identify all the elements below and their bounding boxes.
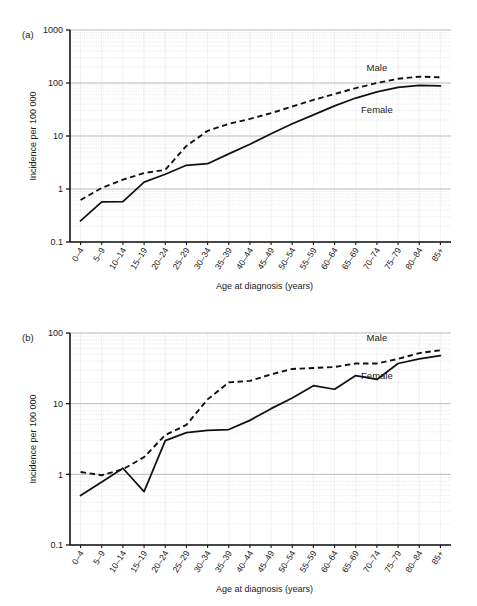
x-tick-label: 35–39 <box>213 246 234 272</box>
x-tick-label: 35–39 <box>213 549 234 575</box>
series-label-female: Female <box>361 104 393 115</box>
x-tick-label: 65–69 <box>340 549 361 575</box>
y-tick-label: 10 <box>53 399 63 409</box>
series-label-male: Male <box>367 332 388 343</box>
y-axis-ticks: 0.1110100 <box>48 328 70 550</box>
x-tick-label: 60–64 <box>319 246 340 272</box>
x-tick-label: 20–24 <box>149 246 170 272</box>
x-tick-label: 0–4 <box>70 549 86 567</box>
x-tick-label: 25–29 <box>170 246 191 272</box>
y-tick-label: 1 <box>58 470 63 480</box>
x-tick-label: 5–9 <box>91 246 107 264</box>
x-tick-label: 15–19 <box>128 549 149 575</box>
y-tick-label: 0.1 <box>50 540 63 550</box>
chart-a: (a)0.11101001000Incidence per 100 0000–4… <box>0 0 477 303</box>
x-tick-label: 65–69 <box>340 246 361 272</box>
x-axis-ticks: 0–45–910–1415–1920–2425–2930–3435–3940–4… <box>70 242 446 271</box>
x-axis-ticks: 0–45–910–1415–1920–2425–2930–3435–3940–4… <box>70 545 446 574</box>
y-tick-label: 1 <box>58 184 63 194</box>
x-tick-label: 70–74 <box>361 549 382 575</box>
x-tick-label: 85+ <box>429 549 445 567</box>
x-tick-label: 60–64 <box>319 549 340 575</box>
y-axis-title: Incidence per 100 000 <box>28 394 38 483</box>
x-tick-label: 85+ <box>429 246 445 264</box>
gridlines <box>70 30 451 242</box>
x-tick-label: 45–49 <box>255 549 276 575</box>
gridlines <box>70 333 451 545</box>
x-tick-label: 10–14 <box>107 246 128 272</box>
x-tick-label: 80–84 <box>403 549 424 575</box>
x-tick-label: 50–54 <box>276 549 297 575</box>
chart-b: (b)0.1110100Incidence per 100 0000–45–91… <box>0 303 477 606</box>
y-tick-label: 1000 <box>43 25 63 35</box>
x-tick-label: 0–4 <box>70 246 86 264</box>
series-label-female: Female <box>361 370 393 381</box>
y-axis-title: Incidence per 100 000 <box>28 91 38 180</box>
axes <box>70 333 451 545</box>
x-tick-label: 15–19 <box>128 246 149 272</box>
x-tick-label: 40–44 <box>234 549 255 575</box>
x-tick-label: 75–79 <box>382 246 403 272</box>
y-tick-label: 100 <box>48 78 63 88</box>
y-tick-label: 0.1 <box>50 237 63 247</box>
x-axis-title: Age at diagnosis (years) <box>216 584 313 594</box>
x-tick-label: 5–9 <box>91 549 107 567</box>
series-line-male <box>81 350 441 475</box>
x-tick-label: 80–84 <box>403 246 424 272</box>
x-tick-label: 45–49 <box>255 246 276 272</box>
panel-letter: (b) <box>22 332 34 343</box>
figure-panel-a: (a)0.11101001000Incidence per 100 0000–4… <box>0 0 477 303</box>
x-tick-label: 70–74 <box>361 246 382 272</box>
y-tick-label: 10 <box>53 131 63 141</box>
series-label-male: Male <box>367 62 388 73</box>
x-axis-title: Age at diagnosis (years) <box>216 281 313 291</box>
x-tick-label: 55–59 <box>297 549 318 575</box>
figure-panel-b: (b)0.1110100Incidence per 100 0000–45–91… <box>0 303 477 606</box>
x-tick-label: 30–34 <box>192 246 213 272</box>
x-tick-label: 50–54 <box>276 246 297 272</box>
y-axis-ticks: 0.11101001000 <box>43 25 70 247</box>
series-group <box>81 77 441 221</box>
y-tick-label: 100 <box>48 328 63 338</box>
x-tick-label: 40–44 <box>234 246 255 272</box>
x-tick-label: 75–79 <box>382 549 403 575</box>
x-tick-label: 55–59 <box>297 246 318 272</box>
x-tick-label: 10–14 <box>107 549 128 575</box>
panel-letter: (a) <box>22 29 34 40</box>
x-tick-label: 25–29 <box>170 549 191 575</box>
x-tick-label: 20–24 <box>149 549 170 575</box>
x-tick-label: 30–34 <box>192 549 213 575</box>
